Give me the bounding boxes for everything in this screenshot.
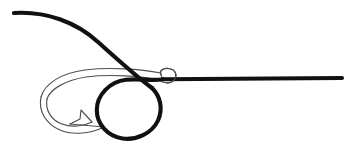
canvas-background: [0, 0, 358, 145]
fishing-knot-illustration: [0, 0, 358, 145]
knot-diagram-canvas: [0, 0, 358, 145]
standing-line-path: [163, 78, 342, 79]
